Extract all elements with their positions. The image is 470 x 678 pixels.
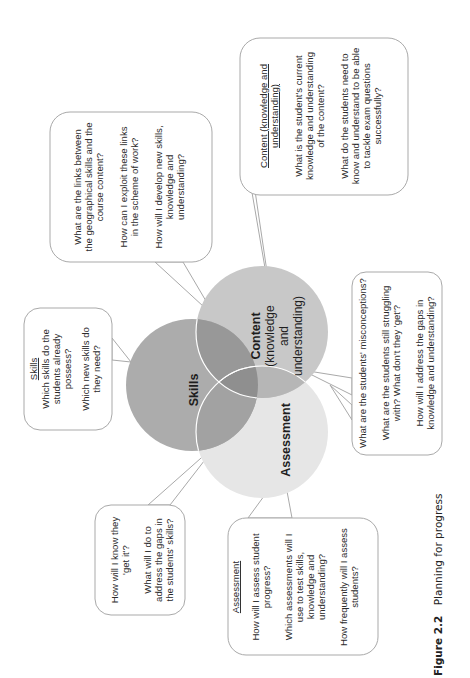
svg-text:knowledge and: knowledge and bbox=[305, 555, 316, 620]
svg-text:progress?: progress? bbox=[261, 566, 272, 609]
svg-text:Which assessments will I: Which assessments will I bbox=[283, 534, 294, 641]
svg-text:Content (knowledge and: Content (knowledge and bbox=[258, 64, 269, 168]
svg-text:to tackle exam questions: to tackle exam questions bbox=[361, 63, 372, 169]
svg-text:knowledge and understanding?: knowledge and understanding? bbox=[425, 296, 436, 429]
figure-caption: Figure 2.2 Planning for progress bbox=[428, 494, 445, 676]
assessment-circle-label: Assessment bbox=[279, 402, 293, 476]
figure-title: Planning for progress bbox=[432, 494, 444, 606]
svg-text:(knowledge: (knowledge bbox=[263, 305, 277, 367]
svg-text:Content: Content bbox=[249, 312, 263, 360]
svg-text:course content?: course content? bbox=[94, 153, 105, 221]
skills-bubble-tail bbox=[112, 338, 131, 362]
svg-text:How frequently will I assess: How frequently will I assess bbox=[338, 528, 349, 646]
svg-text:What are the links between: What are the links between bbox=[72, 129, 83, 245]
svg-text:Figure 2.2 Planning for: Figure 2.2 Planning for progress bbox=[428, 494, 445, 676]
svg-text:understanding?: understanding? bbox=[175, 154, 186, 220]
svg-text:address the gaps in: address the gaps in bbox=[153, 518, 164, 602]
venn-diagram: Skills Content (knowledge and understand… bbox=[0, 0, 470, 678]
skills-circle-label: Skills bbox=[187, 374, 201, 407]
svg-text:How will I know they: How will I know they bbox=[109, 517, 120, 604]
svg-text:knowledge and: knowledge and bbox=[164, 155, 175, 220]
svg-text:Which new skills do: Which new skills do bbox=[80, 327, 91, 411]
svg-text:What are the students still st: What are the students still struggling bbox=[380, 286, 391, 441]
svg-text:of the content?: of the content? bbox=[315, 84, 326, 147]
skills-bubble: Skills Which skills do the students alre… bbox=[24, 308, 112, 430]
svg-text:understanding): understanding) bbox=[291, 296, 305, 376]
svg-text:understanding): understanding) bbox=[269, 84, 280, 148]
svg-text:they need?: they need? bbox=[91, 345, 102, 392]
svg-text:'get it'?: 'get it'? bbox=[120, 545, 131, 575]
svg-text:How will I assess student: How will I assess student bbox=[250, 533, 261, 641]
svg-text:Skills: Skills bbox=[187, 374, 201, 407]
content-bubble: Content (knowledge and understanding) Wh… bbox=[240, 38, 408, 195]
svg-text:Assessment: Assessment bbox=[279, 402, 293, 476]
svg-text:successfully?: successfully? bbox=[372, 87, 383, 144]
svg-text:Skills: Skills bbox=[28, 358, 39, 381]
svg-text:with? What don't they 'get'?: with? What don't they 'get'? bbox=[391, 305, 402, 422]
assessment-bubble: Assessment How will I assess student pro… bbox=[228, 518, 378, 655]
svg-text:What will I do to: What will I do to bbox=[142, 526, 153, 594]
svg-text:understanding?: understanding? bbox=[316, 554, 327, 620]
svg-text:know and understand to be able: know and understand to be able bbox=[350, 48, 361, 185]
misconceptions-bubble: What are the students' misconceptions? W… bbox=[352, 272, 442, 455]
get-it-bubble: How will I know they 'get it'? What will… bbox=[95, 505, 185, 615]
figure-number: Figure 2.2 bbox=[432, 616, 444, 676]
svg-text:Which skills do the: Which skills do the bbox=[40, 329, 51, 408]
svg-text:possess?: possess? bbox=[62, 349, 73, 390]
svg-text:students already: students already bbox=[51, 334, 62, 405]
svg-text:How will I develop new skills,: How will I develop new skills, bbox=[153, 125, 164, 248]
svg-text:use to test skills,: use to test skills, bbox=[294, 552, 305, 622]
svg-text:and: and bbox=[277, 326, 291, 346]
links-bubble: What are the links between the geographi… bbox=[50, 112, 212, 262]
svg-text:What is the student's current: What is the student's current bbox=[293, 55, 304, 177]
svg-text:knowledge and understanding: knowledge and understanding bbox=[304, 52, 315, 180]
svg-text:the geographical skills and th: the geographical skills and the bbox=[83, 122, 94, 251]
svg-text:Assessment: Assessment bbox=[230, 561, 241, 614]
svg-text:What do the students need to: What do the students need to bbox=[339, 53, 350, 178]
svg-text:How will I address the gaps in: How will I address the gaps in bbox=[414, 300, 425, 427]
svg-text:How can I exploit these links: How can I exploit these links bbox=[118, 126, 129, 247]
svg-text:students?: students? bbox=[349, 566, 360, 608]
svg-text:the students' skills?: the students' skills? bbox=[164, 519, 175, 602]
svg-text:in the scheme of work?: in the scheme of work? bbox=[129, 138, 140, 237]
svg-text:What are the students' misconc: What are the students' misconceptions? bbox=[357, 278, 368, 448]
